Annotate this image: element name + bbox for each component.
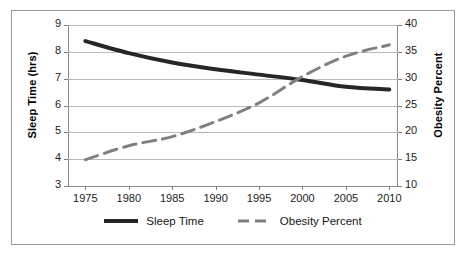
series-line-obesity-percent xyxy=(85,45,389,160)
right-tick-mark xyxy=(398,52,402,53)
left-tick-label: 7 xyxy=(55,71,61,83)
x-tick-mark xyxy=(302,186,303,190)
x-tick-mark xyxy=(172,186,173,190)
right-tick-label: 25 xyxy=(405,98,417,110)
right-tick-mark xyxy=(398,79,402,80)
right-tick-label: 30 xyxy=(405,71,417,83)
right-tick-mark xyxy=(398,186,402,187)
chart-legend: Sleep TimeObesity Percent xyxy=(12,215,454,227)
x-tick-mark xyxy=(129,186,130,190)
gridline xyxy=(68,186,398,187)
right-tick-mark xyxy=(398,25,402,26)
legend-swatch-dashed-line-icon xyxy=(238,216,272,226)
x-tick-label: 2010 xyxy=(377,192,401,204)
x-tick-label: 1990 xyxy=(203,192,227,204)
x-tick-label: 1975 xyxy=(73,192,97,204)
right-tick-label: 15 xyxy=(405,151,417,163)
x-tick-mark xyxy=(346,186,347,190)
series-layer xyxy=(68,25,398,186)
right-tick-label: 35 xyxy=(405,44,417,56)
series-line-sleep-time xyxy=(85,41,389,89)
right-tick-mark xyxy=(398,106,402,107)
x-tick-label: 1995 xyxy=(247,192,271,204)
right-axis-title: Obesity Percent xyxy=(432,25,444,165)
right-tick-mark xyxy=(398,159,402,160)
left-tick-label: 5 xyxy=(55,124,61,136)
legend-item-sleep-time[interactable]: Sleep Time xyxy=(104,215,204,227)
x-tick-mark xyxy=(216,186,217,190)
chart-frame: Sleep Time (hrs) Obesity Percent 3456789… xyxy=(11,10,455,245)
right-tick-label: 20 xyxy=(405,124,417,136)
right-tick-label: 40 xyxy=(405,17,417,29)
x-tick-label: 2000 xyxy=(290,192,314,204)
left-tick-mark xyxy=(64,186,68,187)
x-tick-label: 2005 xyxy=(334,192,358,204)
left-tick-label: 6 xyxy=(55,98,61,110)
x-tick-mark xyxy=(389,186,390,190)
legend-label: Sleep Time xyxy=(146,215,204,227)
x-tick-mark xyxy=(85,186,86,190)
x-tick-label: 1985 xyxy=(160,192,184,204)
legend-swatch-solid-line-icon xyxy=(104,216,138,226)
plot-area: 3456789 10152025303540 19751980198519901… xyxy=(68,25,398,186)
left-tick-label: 3 xyxy=(55,178,61,190)
x-tick-mark xyxy=(259,186,260,190)
legend-label: Obesity Percent xyxy=(280,215,362,227)
left-axis-title: Sleep Time (hrs) xyxy=(26,25,38,165)
right-tick-mark xyxy=(398,132,402,133)
left-tick-label: 8 xyxy=(55,44,61,56)
left-tick-label: 4 xyxy=(55,151,61,163)
right-tick-label: 10 xyxy=(405,178,417,190)
x-tick-label: 1980 xyxy=(117,192,141,204)
legend-item-obesity-percent[interactable]: Obesity Percent xyxy=(238,215,362,227)
left-tick-label: 9 xyxy=(55,17,61,29)
